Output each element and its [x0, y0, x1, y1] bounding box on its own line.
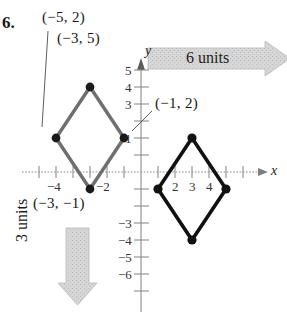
vertex-point	[187, 235, 196, 244]
y-tick-label-neg3: −3	[118, 217, 132, 230]
vertex-point	[52, 134, 61, 143]
y-tick-label-1: 1	[125, 132, 132, 145]
translation-down-arrow-icon	[58, 228, 97, 305]
x-tick-label-4: 4	[206, 180, 213, 193]
x-axis-label: x	[271, 164, 277, 178]
y-tick-label-3: 3	[125, 98, 132, 111]
horizontal-translation-label: 6 units	[186, 50, 229, 66]
vertex-label-neg5-2: (−5, 2)	[42, 10, 85, 25]
vertical-translation-label: 3 units	[14, 199, 30, 242]
problem-number: 6.	[2, 14, 15, 31]
vertex-point	[86, 185, 95, 194]
x-tick-label-neg2: −2	[96, 180, 110, 193]
y-axis-label: y	[145, 44, 151, 58]
vertex-point	[86, 83, 95, 92]
y-tick-label-neg5: −5	[118, 251, 132, 264]
y-tick-label-neg4: −4	[118, 234, 132, 247]
coordinate-plane-graphic	[0, 0, 287, 322]
vertex-label-neg3-neg1: (−3, −1)	[33, 196, 85, 211]
leader-lines	[42, 31, 152, 131]
vertex-point	[221, 184, 230, 193]
vertex-label-neg1-2: (−1, 2)	[155, 96, 198, 111]
vertex-point	[153, 184, 162, 193]
y-tick-label-4: 4	[125, 81, 132, 94]
y-tick-label-neg6: −6	[118, 268, 132, 281]
figure-canvas: 6. (−5, 2) (−3, 5) (−1, 2) (−3, −1) −4 −…	[0, 0, 287, 322]
x-tick-label-neg4: −4	[47, 180, 61, 193]
x-tick-label-2: 2	[172, 180, 179, 193]
vertex-label-neg3-5: (−3, 5)	[57, 31, 100, 46]
vertex-point	[187, 133, 196, 142]
x-tick-label-3: 3	[189, 180, 196, 193]
y-tick-label-5: 5	[125, 64, 132, 77]
